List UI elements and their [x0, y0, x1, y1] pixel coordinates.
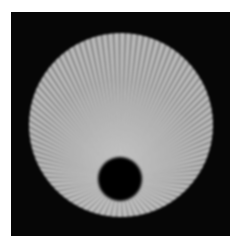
starburst-phantom [0, 0, 241, 246]
phantom-hole [98, 157, 142, 201]
